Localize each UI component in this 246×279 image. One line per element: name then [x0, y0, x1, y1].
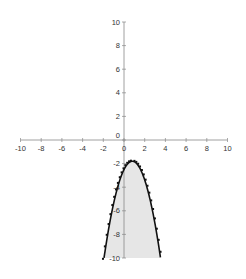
data-point	[111, 204, 113, 206]
data-point	[156, 228, 158, 230]
data-point	[154, 217, 156, 219]
data-point	[148, 192, 150, 194]
data-point	[146, 185, 148, 187]
data-point	[135, 161, 137, 163]
data-point	[133, 160, 135, 162]
data-point	[158, 239, 160, 241]
y-tick-label: 10	[112, 18, 120, 27]
y-tick-label: 2	[116, 112, 120, 121]
x-tick-label: 10	[223, 144, 231, 153]
x-tick-label: -4	[79, 144, 86, 153]
data-point	[106, 234, 108, 236]
y-tick-label: -10	[109, 254, 120, 263]
data-point	[102, 258, 104, 260]
data-point	[128, 160, 130, 162]
x-tick-label: 0	[122, 144, 126, 153]
data-point	[130, 160, 132, 162]
y-tick-label: 8	[116, 41, 120, 50]
data-point	[145, 179, 147, 181]
y-tick-label: 4	[116, 88, 120, 97]
x-tick-label: -10	[15, 144, 26, 153]
data-point	[117, 182, 119, 184]
x-tick-label: 8	[205, 144, 209, 153]
y-tick-label: 0	[116, 131, 120, 140]
data-point	[113, 196, 115, 198]
x-tick-label: -8	[38, 144, 45, 153]
y-tick-label: -8	[113, 230, 120, 239]
data-point	[137, 163, 139, 165]
data-point	[160, 251, 162, 253]
data-point	[109, 213, 111, 215]
x-tick-label: 6	[184, 144, 188, 153]
axes	[21, 22, 228, 258]
data-point	[119, 176, 121, 178]
data-point	[139, 165, 141, 167]
data-point	[122, 167, 124, 169]
x-tick-label: 4	[163, 144, 167, 153]
x-tick-label: -6	[59, 144, 66, 153]
data-point	[152, 208, 154, 210]
data-point	[104, 245, 106, 247]
x-tick-label: 2	[143, 144, 147, 153]
data-point	[108, 223, 110, 225]
data-point	[121, 171, 123, 173]
data-point	[115, 188, 117, 190]
data-point	[124, 164, 126, 166]
data-point	[141, 169, 143, 171]
parabola-chart: -10-8-6-4-202468101086420-2-4-6-8-10	[0, 0, 246, 279]
x-tick-label: -2	[100, 144, 107, 153]
y-tick-label: -2	[113, 159, 120, 168]
y-tick-label: 6	[116, 65, 120, 74]
y-tick-label: -6	[113, 206, 120, 215]
data-point	[150, 199, 152, 201]
data-point	[126, 162, 128, 164]
data-point	[143, 173, 145, 175]
